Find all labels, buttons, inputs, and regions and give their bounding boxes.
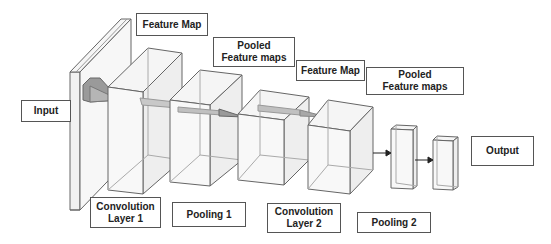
convolution-layer-1-label: Convolution Layer 1 bbox=[90, 197, 161, 228]
pooling-1-label: Pooling 1 bbox=[172, 202, 246, 227]
pooled-feature-maps-2-label: Pooled Feature maps bbox=[366, 67, 464, 95]
output-label: Output bbox=[471, 136, 534, 166]
convolution-layer-2-label: Convolution Layer 2 bbox=[267, 203, 341, 233]
pooled-vector-cuboid-2 bbox=[433, 136, 458, 190]
feature-map-2-label: Feature Map bbox=[296, 60, 365, 81]
conv2-feature-map-cuboid bbox=[238, 90, 309, 185]
arrow-to-pooled-vector-2 bbox=[415, 157, 433, 163]
pooled-feature-maps-1-label: Pooled Feature maps bbox=[213, 37, 295, 67]
feature-map-1-label: Feature Map bbox=[136, 13, 208, 36]
arrow-to-pooled-vector-1 bbox=[373, 150, 391, 156]
pooled-vector-cuboid-1 bbox=[391, 125, 417, 189]
pooling-2-label: Pooling 2 bbox=[357, 212, 431, 233]
feature-map-2-cuboid bbox=[308, 100, 373, 194]
input-label: Input bbox=[21, 100, 71, 122]
